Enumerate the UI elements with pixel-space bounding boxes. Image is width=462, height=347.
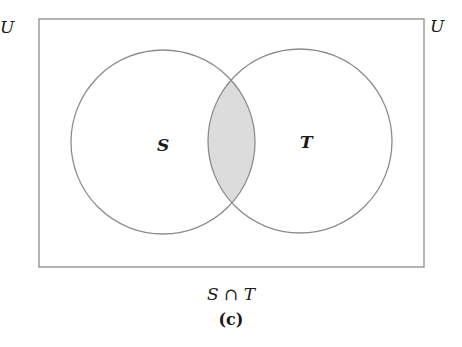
caption-expression: S ∩ T: [207, 284, 257, 304]
set-s-label: S: [157, 135, 169, 155]
universe-label-left: U: [0, 17, 15, 37]
universe-label: U: [430, 16, 445, 36]
caption-tag: (c): [219, 310, 244, 329]
set-t-label: T: [300, 132, 314, 152]
venn-diagram: U U S T S ∩ T (c): [0, 0, 462, 347]
